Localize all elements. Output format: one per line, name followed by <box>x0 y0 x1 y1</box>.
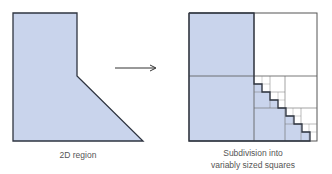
right-panel-label-line2: variably sized squares <box>193 159 313 171</box>
arrow-right-icon <box>115 65 156 71</box>
right-panel-label-line1: Subdivision into <box>193 147 313 159</box>
left-panel-label: 2D region <box>38 149 118 161</box>
2d-region-shape <box>13 13 143 141</box>
subdivision-grid <box>189 13 317 141</box>
